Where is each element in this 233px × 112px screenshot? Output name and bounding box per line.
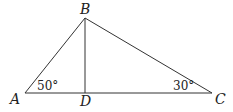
triangle-diagram: B A D C 50° 30° [0,0,233,112]
angle-label-a: 50° [37,79,58,93]
vertex-label-c: C [215,91,226,107]
point-label-d: D [79,93,91,109]
vertex-label-a: A [8,91,20,107]
angle-label-c: 30° [173,79,194,93]
diagram-canvas: B A D C 50° 30° [0,0,233,112]
vertex-label-b: B [79,1,90,17]
